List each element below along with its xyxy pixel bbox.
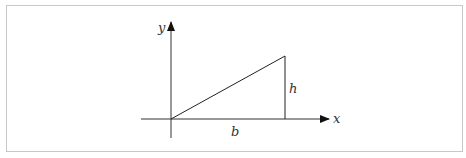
base-label: b	[231, 124, 239, 139]
triangle-diagram: y x b h	[0, 0, 466, 158]
y-axis-label: y	[157, 20, 166, 35]
height-label: h	[289, 81, 297, 96]
hypotenuse	[171, 56, 285, 119]
x-axis-label: x	[333, 111, 341, 126]
